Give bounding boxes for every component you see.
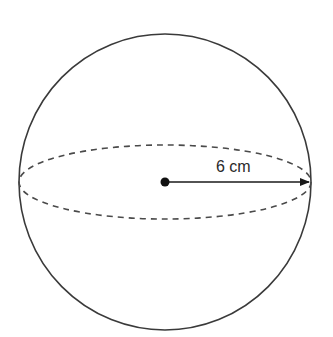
radius-label: 6 cm: [216, 158, 251, 175]
center-dot: [161, 178, 170, 187]
sphere-diagram: 6 cm: [0, 0, 333, 337]
